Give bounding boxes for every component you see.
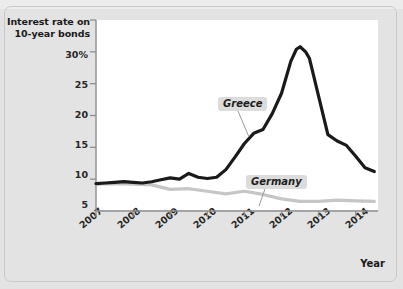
leader-line-germany — [259, 189, 265, 206]
series-line-greece — [96, 47, 374, 184]
chart-plot-svg — [0, 0, 403, 289]
series-line-germany — [96, 184, 374, 202]
y-axis-ticks — [90, 20, 96, 179]
x-axis-ticks — [96, 211, 356, 217]
chart-figure: Interest rate on 10-year bonds 30% 25 20… — [0, 0, 403, 289]
leader-line-greece — [238, 111, 249, 137]
